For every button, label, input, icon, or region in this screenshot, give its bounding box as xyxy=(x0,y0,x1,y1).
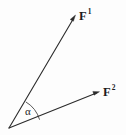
vector-superscript-f2: 2 xyxy=(112,83,116,92)
vector-f2-arrowhead xyxy=(93,91,100,95)
vector-f1-arrowhead xyxy=(70,15,75,21)
vector-label-f2: F2 xyxy=(103,85,115,99)
force-vector-diagram: F1 F2 α xyxy=(0,0,126,135)
vector-symbol-f1: F xyxy=(79,9,87,23)
vector-label-f1: F1 xyxy=(79,9,91,23)
angle-label-alpha: α xyxy=(25,106,31,117)
vector-f1-line xyxy=(9,19,74,129)
vector-superscript-f1: 1 xyxy=(88,7,92,16)
vector-symbol-f2: F xyxy=(103,85,111,99)
vector-f2-line xyxy=(9,93,97,128)
vector-canvas xyxy=(0,0,126,135)
